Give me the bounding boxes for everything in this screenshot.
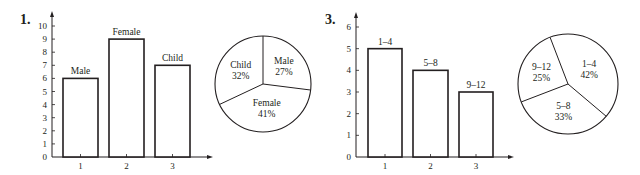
pie-slice-percent: 27% [275, 67, 293, 77]
y-tick-label: 9 [43, 34, 48, 44]
bar-label: 1–4 [378, 37, 393, 47]
bar [155, 65, 190, 157]
y-tick-label: 4 [347, 65, 352, 75]
bar [459, 92, 493, 157]
y-tick-label: 7 [43, 60, 48, 70]
problem-number: 1. [20, 12, 31, 27]
y-tick-label: 2 [347, 109, 352, 119]
pie-slice-percent: 33% [555, 112, 573, 122]
x-tick-label: 3 [170, 161, 175, 171]
bar-label: Child [162, 53, 183, 63]
y-tick-label: 0 [43, 152, 48, 162]
y-tick-label: 8 [43, 47, 48, 57]
bar-label: 9–12 [467, 80, 486, 90]
y-tick-label: 6 [347, 22, 352, 32]
bar-chart-2: 3.01234561–415–829–123 [325, 12, 514, 171]
pie-slice-label: 9–12 [532, 62, 551, 72]
pie-slice-percent: 25% [533, 73, 551, 83]
x-tick-label: 1 [78, 161, 83, 171]
y-tick-label: 5 [43, 87, 48, 97]
figure-canvas: 1.012345678910Male1Female2Child3Male27%F… [0, 0, 640, 175]
y-tick-label: 1 [43, 139, 48, 149]
bar [368, 49, 402, 157]
pie-slice-percent: 42% [580, 70, 598, 80]
pie-slice-label: Male [274, 56, 294, 66]
bar [63, 78, 98, 157]
y-tick-label: 6 [43, 73, 48, 83]
bar-label: 5–8 [423, 58, 438, 68]
pie-chart-2: 1–442%5–833%9–1225% [518, 34, 618, 134]
bar [109, 39, 144, 157]
pie-slice-label: 5–8 [556, 101, 571, 111]
y-tick-label: 3 [347, 87, 352, 97]
x-axis-arrow-icon [508, 155, 514, 159]
x-tick-label: 2 [428, 161, 433, 171]
y-tick-label: 10 [38, 21, 48, 31]
x-axis-arrow-icon [207, 155, 213, 159]
problem-number: 3. [325, 12, 336, 27]
bar-label: Male [71, 66, 91, 76]
y-tick-label: 3 [43, 113, 48, 123]
bar-label: Female [113, 27, 141, 37]
x-tick-label: 3 [474, 161, 479, 171]
x-tick-label: 2 [124, 161, 129, 171]
y-axis-arrow-icon [354, 12, 358, 18]
y-tick-label: 4 [43, 100, 48, 110]
bar-chart-1: 1.012345678910Male1Female2Child3 [20, 11, 213, 171]
y-axis-arrow-icon [50, 11, 54, 17]
y-tick-label: 5 [347, 44, 352, 54]
pie-slice-label: 1–4 [582, 59, 597, 69]
pie-slice-percent: 41% [258, 109, 276, 119]
y-tick-label: 0 [347, 152, 352, 162]
y-tick-label: 2 [43, 126, 48, 136]
pie-slice-label: Child [230, 60, 251, 70]
bar [413, 70, 448, 157]
pie-slice-label: Female [253, 98, 281, 108]
pie-slice-percent: 32% [232, 71, 250, 81]
x-tick-label: 1 [383, 161, 388, 171]
y-tick-label: 1 [347, 130, 352, 140]
pie-chart-1: Male27%Female41%Child32% [215, 36, 311, 132]
